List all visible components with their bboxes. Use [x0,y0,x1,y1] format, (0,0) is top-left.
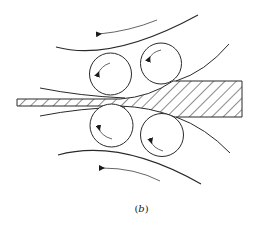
bottom-backup-arrow-icon [102,168,160,181]
top-backup-roll-surface [56,15,198,51]
rolling-mill-diagram [0,0,254,229]
lower-left-roll [90,104,133,147]
upper-left-roll [90,53,132,95]
caption-close-paren: ) [145,203,149,214]
top-backup-arrow-icon [99,20,157,34]
workpiece [17,81,242,117]
upper-right-roll [141,43,182,84]
figure-caption: (b) [0,203,254,214]
lower-right-guide-curve [176,117,230,153]
lower-right-roll [141,114,184,157]
bottom-backup-roll-surface [58,150,201,184]
upper-right-guide-curve [176,44,229,81]
